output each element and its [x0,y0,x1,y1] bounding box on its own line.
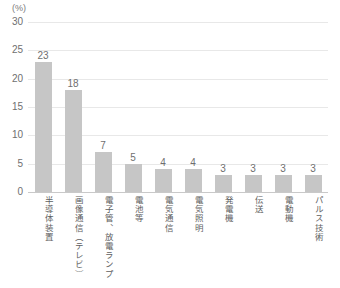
bar-group: 3 [275,22,292,192]
bar [65,90,82,192]
y-axis-unit-label: (%) [12,3,26,13]
bar-value-label: 18 [67,78,78,89]
y-axis-tick-label: 15 [12,102,23,112]
category-axis-labels: 半導体装置画像通信（テレビ）電子管、放電ランプ電池等電気通信電気照明発電機伝送電… [28,196,328,286]
y-axis-tick-label: 20 [12,74,23,84]
bar-value-label: 3 [280,163,286,174]
y-axis-tick-label: 10 [12,130,23,140]
bar-value-label: 4 [190,157,196,168]
bar-value-label: 3 [250,163,256,174]
bar-group: 3 [215,22,232,192]
bar-chart: (%) 051015202530 231875443333 半導体装置画像通信（… [0,0,340,288]
bar-value-label: 23 [37,50,48,61]
bar-group: 23 [35,22,52,192]
category-label: 電気照明 [185,196,202,233]
bar [185,169,202,192]
bar-group: 4 [155,22,172,192]
bars-layer: 231875443333 [28,22,328,192]
bar-value-label: 7 [100,140,106,151]
bar-value-label: 3 [220,163,226,174]
bar-value-label: 4 [160,157,166,168]
category-label: 画像通信（テレビ） [65,196,82,279]
bar [305,175,322,192]
category-label: パルス技術 [305,196,322,242]
category-label: 電気通信 [155,196,172,233]
category-label: 電池等 [125,196,142,224]
bar [275,175,292,192]
bar-value-label: 3 [310,163,316,174]
bar-group: 5 [125,22,142,192]
category-label: 電子管、放電ランプ [95,196,112,279]
bar-group: 7 [95,22,112,192]
bar-group: 3 [305,22,322,192]
bar [245,175,262,192]
bar-group: 4 [185,22,202,192]
bar-group: 3 [245,22,262,192]
category-label: 伝送 [245,196,262,214]
bar [155,169,172,192]
bar-group: 18 [65,22,82,192]
bar [35,62,52,192]
y-axis-tick-label: 0 [17,187,23,197]
bar-value-label: 5 [130,152,136,163]
x-axis-line: 0 [28,192,328,193]
y-axis-tick-label: 30 [12,17,23,27]
category-label: 電動機 [275,196,292,224]
category-label: 発電機 [215,196,232,224]
bar [215,175,232,192]
bar [125,164,142,192]
y-axis-tick-label: 5 [17,159,23,169]
category-label: 半導体装置 [35,196,52,242]
bar [95,152,112,192]
plot-area: 051015202530 231875443333 [28,22,328,192]
y-axis-tick-label: 25 [12,45,23,55]
